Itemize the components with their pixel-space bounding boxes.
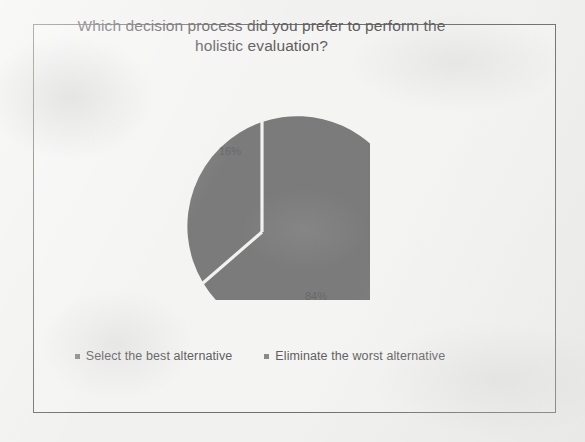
- pie-label-eliminate-worst: 84%: [305, 290, 327, 300]
- pie-label-select-best: 16%: [219, 145, 241, 157]
- legend-label-select-best: Select the best alternative: [86, 349, 233, 363]
- legend-label-eliminate-worst: Eliminate the worst alternative: [275, 349, 445, 363]
- chart-legend: Select the best alternative Eliminate th…: [40, 349, 480, 363]
- chart-title-line-2: holistic evaluation?: [50, 36, 473, 56]
- legend-swatch-icon: [264, 354, 269, 359]
- legend-item-eliminate-worst[interactable]: Eliminate the worst alternative: [264, 349, 445, 363]
- chart-title-line-1: Which decision process did you prefer to…: [50, 16, 473, 36]
- legend-swatch-icon: [75, 354, 80, 359]
- chart-title: Which decision process did you prefer to…: [50, 16, 473, 56]
- legend-item-select-best[interactable]: Select the best alternative: [75, 349, 233, 363]
- pie-svg: 16% 84%: [155, 74, 370, 300]
- pie-chart: 16% 84%: [155, 74, 370, 300]
